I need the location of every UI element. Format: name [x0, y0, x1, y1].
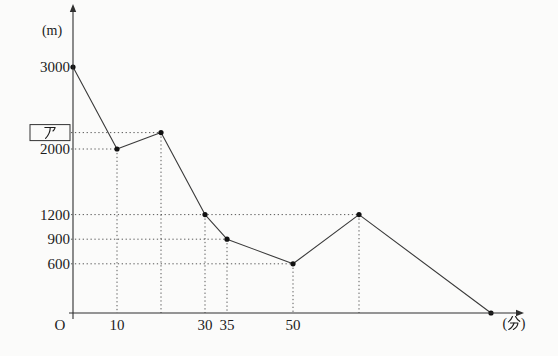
x-axis-unit-label — [508, 317, 519, 330]
data-point — [290, 261, 295, 266]
x-axis-unit-label-stroke — [509, 323, 514, 329]
x-tick-label: 30 — [198, 317, 213, 333]
data-point — [114, 146, 119, 151]
x-tick-label: 50 — [286, 317, 301, 333]
y-tick-label: 1200 — [40, 207, 70, 223]
x-axis-unit-label: ) — [521, 316, 526, 332]
data-polyline — [73, 67, 491, 313]
y-tick-label: 600 — [48, 256, 71, 272]
y-axis-unit-label: (m) — [42, 23, 63, 39]
x-tick-label: 10 — [110, 317, 125, 333]
unknown-value-box — [30, 125, 70, 141]
data-point — [202, 212, 207, 217]
x-axis-unit-label-stroke — [508, 317, 512, 322]
y-tick-label: 2000 — [40, 141, 70, 157]
graph-page: 30002000120090060010303550O(m)() — [0, 0, 558, 356]
distance-time-graph: 30002000120090060010303550O(m)() — [0, 0, 558, 356]
data-point — [158, 130, 163, 135]
x-axis-unit-label-stroke — [516, 317, 520, 322]
y-tick-label: 3000 — [40, 59, 70, 75]
data-point — [356, 212, 361, 217]
x-tick-label: 35 — [220, 317, 235, 333]
y-tick-label: 900 — [48, 231, 71, 247]
data-point — [224, 237, 229, 242]
y-axis-arrow — [70, 4, 76, 12]
unknown-value-label — [45, 128, 55, 139]
unknown-value-label-stroke — [46, 128, 51, 139]
x-axis-unit-label: ( — [503, 316, 508, 332]
origin-label: O — [55, 317, 66, 333]
